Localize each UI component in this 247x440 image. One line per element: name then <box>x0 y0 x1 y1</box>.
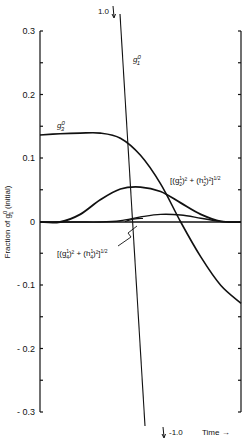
chart: 0.3 0.2 0.1 0 - 0.1 - 0.2 - 0.3 Fraction… <box>0 0 247 440</box>
g1-label: g01 <box>133 54 141 66</box>
ytick-6: - 0.3 <box>17 407 35 417</box>
g21-label: [(g12)² + (h12)²]1/2 <box>170 175 221 187</box>
ytick-2: 0.1 <box>22 153 35 163</box>
g1-top-arrow <box>112 6 116 18</box>
g3-label: g03 <box>57 120 65 132</box>
g1-bottom-arrow <box>162 427 166 438</box>
g41-label: [(g14)² + (h14)²]1/2 <box>57 248 108 260</box>
ytick-4: - 0.1 <box>17 280 35 290</box>
g1-bottom-value: -1.0 <box>169 428 183 437</box>
y-tick-labels: 0.3 0.2 0.1 0 - 0.1 - 0.2 - 0.3 <box>17 26 35 417</box>
g1-top-value: 1.0 <box>98 7 110 16</box>
y-axis-label: Fraction of g01 (initial) <box>2 185 14 258</box>
ytick-1: 0.2 <box>22 90 35 100</box>
ytick-0: 0.3 <box>22 26 35 36</box>
ytick-5: - 0.2 <box>17 344 35 354</box>
ytick-3: 0 <box>30 217 35 227</box>
x-axis-label: Time → <box>202 428 230 437</box>
